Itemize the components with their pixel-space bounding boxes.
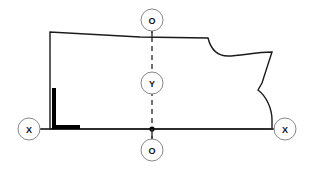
axis-marker-o-bottom-label: O bbox=[148, 146, 155, 156]
axis-marker-x-right[interactable]: X bbox=[274, 118, 296, 140]
axis-marker-x-left[interactable]: X bbox=[18, 118, 40, 140]
axis-marker-o-top-label: O bbox=[148, 16, 155, 26]
axis-marker-y-middle[interactable]: Y bbox=[141, 72, 163, 94]
axis-marker-y-middle-label: Y bbox=[149, 79, 155, 89]
axis-marker-o-bottom[interactable]: O bbox=[141, 139, 163, 161]
axis-marker-x-left-label: X bbox=[26, 125, 32, 135]
axis-marker-x-right-label: X bbox=[282, 125, 288, 135]
corner-marker-horizontal-bar bbox=[52, 125, 80, 129]
pattern-diagram-canvas: OYOXX bbox=[0, 0, 312, 170]
square-corner-marker bbox=[52, 88, 80, 129]
pattern-diagram-svg: OYOXX bbox=[0, 0, 312, 170]
axis-marker-group: OYOXX bbox=[18, 9, 296, 161]
axis-marker-o-top[interactable]: O bbox=[141, 9, 163, 31]
corner-marker-vertical-bar bbox=[52, 88, 56, 129]
